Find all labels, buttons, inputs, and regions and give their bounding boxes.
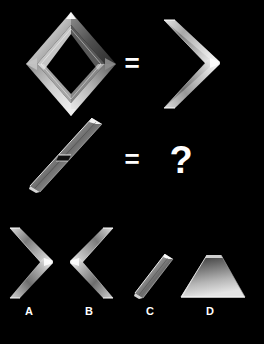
puzzle-canvas: = xyxy=(0,0,264,344)
diagonal-bar-notched-shape xyxy=(26,116,106,194)
option-d-shape xyxy=(179,253,247,301)
option-a-shape xyxy=(8,226,56,300)
option-a-label: A xyxy=(17,305,41,317)
question-mark-placeholder: ? xyxy=(158,141,204,179)
option-b-label: B xyxy=(77,305,101,317)
right-chevron-shape xyxy=(162,18,224,110)
equals-sign-row-1: = xyxy=(112,50,152,76)
option-d-label: D xyxy=(198,305,222,317)
diamond-outline-shape xyxy=(26,12,116,116)
option-c-label: C xyxy=(138,305,162,317)
option-b-shape xyxy=(67,226,115,300)
option-c-shape xyxy=(132,252,176,300)
equals-sign-row-2: = xyxy=(112,146,152,172)
